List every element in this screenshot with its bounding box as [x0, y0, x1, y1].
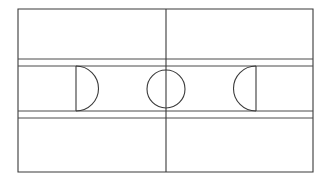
court-diagram-figure [0, 0, 331, 184]
court-diagram-canvas [0, 0, 331, 184]
